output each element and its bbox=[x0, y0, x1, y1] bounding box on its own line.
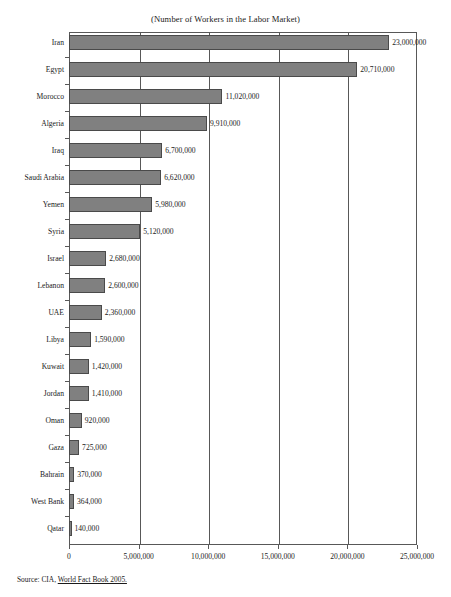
bar-value-label: 1,420,000 bbox=[89, 363, 122, 371]
bar-value-label: 1,410,000 bbox=[89, 390, 122, 398]
bar[interactable] bbox=[69, 305, 102, 320]
x-axis-tick-label: 25,000,000 bbox=[400, 553, 434, 561]
x-axis-tick bbox=[69, 545, 70, 549]
bar[interactable] bbox=[69, 359, 89, 374]
source-publication: World Fact Book 2005. bbox=[58, 575, 127, 584]
bar-value-label: 6,620,000 bbox=[161, 174, 194, 182]
bar-row[interactable]: Gaza725,000 bbox=[0, 440, 451, 456]
bar-row[interactable]: Lebanon2,600,000 bbox=[0, 278, 451, 294]
bar-row[interactable]: Morocco11,020,000 bbox=[0, 89, 451, 105]
bar[interactable] bbox=[69, 224, 140, 239]
category-label: Libya bbox=[0, 336, 64, 344]
category-label: Israel bbox=[0, 255, 64, 263]
bar[interactable] bbox=[69, 197, 152, 212]
category-label: Jordan bbox=[0, 390, 64, 398]
x-axis-tick bbox=[278, 545, 279, 549]
bar-value-label: 5,980,000 bbox=[152, 201, 185, 209]
category-label: Iraq bbox=[0, 147, 64, 155]
x-axis-tick-label: 0 bbox=[67, 553, 71, 561]
bar-value-label: 920,000 bbox=[82, 417, 110, 425]
bar-row[interactable]: Israel2,680,000 bbox=[0, 251, 451, 267]
bar-row[interactable]: Iraq6,700,000 bbox=[0, 143, 451, 159]
x-axis-tick-label: 15,000,000 bbox=[261, 553, 295, 561]
category-label: West Bank bbox=[0, 498, 64, 506]
bar[interactable] bbox=[69, 386, 89, 401]
x-axis-tick-label: 10,000,000 bbox=[191, 553, 225, 561]
chart-title: (Number of Workers in the Labor Market) bbox=[0, 14, 451, 24]
bar-value-label: 725,000 bbox=[79, 444, 107, 452]
source-note: Source: CIA, World Fact Book 2005. bbox=[17, 576, 127, 583]
bar[interactable] bbox=[69, 170, 161, 185]
bar[interactable] bbox=[69, 116, 207, 131]
bar[interactable] bbox=[69, 413, 82, 428]
category-label: Kuwait bbox=[0, 363, 64, 371]
category-label: Gaza bbox=[0, 444, 64, 452]
bar-row[interactable]: Algeria9,910,000 bbox=[0, 116, 451, 132]
category-label: Oman bbox=[0, 417, 64, 425]
category-label: Morocco bbox=[0, 93, 64, 101]
x-axis-tick bbox=[347, 545, 348, 549]
category-label: Yemen bbox=[0, 201, 64, 209]
bar-value-label: 5,120,000 bbox=[140, 228, 173, 236]
bar[interactable] bbox=[69, 62, 357, 77]
category-label: Lebanon bbox=[0, 282, 64, 290]
bar-row[interactable]: Iran23,000,000 bbox=[0, 35, 451, 51]
x-axis-tick bbox=[139, 545, 140, 549]
bar-row[interactable]: Kuwait1,420,000 bbox=[0, 359, 451, 375]
bar-value-label: 23,000,000 bbox=[389, 39, 426, 47]
bar-value-label: 6,700,000 bbox=[162, 147, 195, 155]
category-label: Bahrain bbox=[0, 471, 64, 479]
bar-row[interactable]: Saudi Arabia6,620,000 bbox=[0, 170, 451, 186]
bar-row[interactable]: Egypt20,710,000 bbox=[0, 62, 451, 78]
x-axis-tick bbox=[208, 545, 209, 549]
bar-row[interactable]: Bahrain370,000 bbox=[0, 467, 451, 483]
category-label: Algeria bbox=[0, 120, 64, 128]
category-label: Qatar bbox=[0, 525, 64, 533]
bar-row[interactable]: Yemen5,980,000 bbox=[0, 197, 451, 213]
x-axis-tick bbox=[417, 545, 418, 549]
bar[interactable] bbox=[69, 35, 389, 50]
bar-value-label: 9,910,000 bbox=[207, 120, 240, 128]
source-prefix: Source: CIA, bbox=[17, 575, 58, 584]
bar-value-label: 20,710,000 bbox=[357, 66, 394, 74]
bar-row[interactable]: Libya1,590,000 bbox=[0, 332, 451, 348]
x-axis-tick-label: 5,000,000 bbox=[123, 553, 153, 561]
bar-row[interactable]: Jordan1,410,000 bbox=[0, 386, 451, 402]
bar-row[interactable]: Qatar140,000 bbox=[0, 521, 451, 537]
bar-chart-figure: (Number of Workers in the Labor Market) … bbox=[0, 0, 451, 597]
bar-value-label: 2,360,000 bbox=[102, 309, 135, 317]
bar[interactable] bbox=[69, 440, 79, 455]
x-axis-tick-label: 20,000,000 bbox=[330, 553, 364, 561]
bar-value-label: 364,000 bbox=[74, 498, 102, 506]
bar[interactable] bbox=[69, 143, 162, 158]
category-label: Syria bbox=[0, 228, 64, 236]
bar-row[interactable]: UAE2,360,000 bbox=[0, 305, 451, 321]
bar-value-label: 1,590,000 bbox=[91, 336, 124, 344]
bar-value-label: 11,020,000 bbox=[222, 93, 259, 101]
bar-row[interactable]: Syria5,120,000 bbox=[0, 224, 451, 240]
category-label: Saudi Arabia bbox=[0, 174, 64, 182]
bar-value-label: 370,000 bbox=[74, 471, 102, 479]
bar-value-label: 2,600,000 bbox=[105, 282, 138, 290]
bar[interactable] bbox=[69, 332, 91, 347]
category-label: Iran bbox=[0, 39, 64, 47]
bar[interactable] bbox=[69, 89, 222, 104]
bar-value-label: 2,680,000 bbox=[106, 255, 139, 263]
category-label: Egypt bbox=[0, 66, 64, 74]
bar[interactable] bbox=[69, 278, 105, 293]
bar-value-label: 140,000 bbox=[72, 525, 100, 533]
category-label: UAE bbox=[0, 309, 64, 317]
bar[interactable] bbox=[69, 251, 106, 266]
bar-row[interactable]: West Bank364,000 bbox=[0, 494, 451, 510]
bar-row[interactable]: Oman920,000 bbox=[0, 413, 451, 429]
